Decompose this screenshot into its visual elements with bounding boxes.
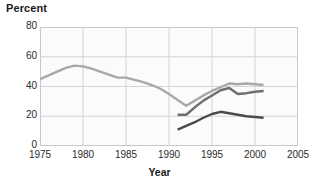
x-axis-title: Year xyxy=(0,166,319,178)
line-chart: Percent 020406080 1975198019851990199520… xyxy=(0,0,319,185)
x-tick-label: 1985 xyxy=(104,149,148,160)
x-axis-tick-labels: 1975198019851990199520002005 xyxy=(0,0,319,185)
x-tick-label: 1990 xyxy=(147,149,191,160)
x-tick-label: 2000 xyxy=(233,149,277,160)
x-tick-label: 1980 xyxy=(61,149,105,160)
x-tick-label: 2005 xyxy=(276,149,319,160)
x-tick-label: 1975 xyxy=(18,149,62,160)
x-tick-label: 1995 xyxy=(190,149,234,160)
